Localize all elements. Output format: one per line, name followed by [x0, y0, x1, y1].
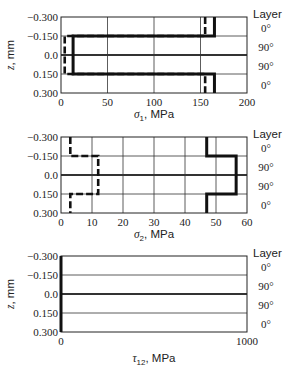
x-tick-label: 0	[58, 216, 64, 228]
layer-label: 90°	[258, 41, 273, 53]
y-tick-label: 0.0	[44, 288, 58, 300]
x-tick-label: 0	[58, 335, 64, 347]
x-tick-label: 60	[242, 216, 254, 228]
layer-label: 90°	[258, 60, 273, 72]
y-tick-label: 0.150	[33, 307, 58, 319]
y-tick-label: 0.150	[33, 68, 58, 80]
y-tick-label: −0.300	[27, 131, 58, 143]
y-tick-label: 0.300	[33, 87, 58, 99]
chart-panel-3: −0.300−0.1500.00.1500.30001000τ12, MPaz,…	[4, 247, 282, 367]
y-axis-label: z, mm	[4, 40, 16, 71]
layer-label: 0°	[261, 199, 271, 211]
layer-label: 90°	[258, 280, 273, 292]
layer-label: 0°	[261, 22, 271, 34]
x-tick-label: 100	[146, 96, 163, 108]
x-axis-label: σ1, MPa	[134, 108, 175, 123]
layer-label: 90°	[258, 299, 273, 311]
x-tick-label: 200	[239, 96, 256, 108]
x-tick-label: 150	[192, 96, 209, 108]
y-tick-label: 0.300	[33, 326, 58, 338]
x-tick-label: 1000	[236, 335, 259, 347]
grid-lines	[61, 137, 247, 213]
y-tick-label: −0.300	[27, 11, 58, 23]
x-tick-label: 40	[180, 216, 192, 228]
y-tick-label: 0.0	[44, 49, 58, 61]
x-tick-label: 20	[118, 216, 130, 228]
y-tick-label: 0.150	[33, 188, 58, 200]
layer-label: 90°	[258, 180, 273, 192]
layer-header: Layer	[253, 8, 282, 20]
layer-header: Layer	[253, 128, 282, 140]
x-axis-label: τ12, MPa	[132, 352, 176, 367]
y-tick-label: −0.150	[27, 150, 58, 162]
x-tick-label: 50	[211, 216, 223, 228]
y-tick-label: −0.300	[27, 250, 58, 262]
layer-label: 0°	[261, 261, 271, 273]
x-tick-label: 10	[87, 216, 99, 228]
grid-lines	[61, 17, 247, 93]
x-tick-label: 30	[149, 216, 161, 228]
x-axis-label: σ2, MPa	[134, 228, 175, 243]
y-tick-label: 0.0	[44, 169, 58, 181]
y-tick-label: −0.150	[27, 269, 58, 281]
chart-panel-1: −0.300−0.1500.00.1500.300050100150200σ1,…	[4, 8, 282, 123]
layer-label: 90°	[258, 161, 273, 173]
grid-lines	[61, 275, 247, 313]
layer-label: 0°	[261, 142, 271, 154]
y-axis-label: z, mm	[4, 279, 16, 310]
y-tick-label: −0.150	[27, 30, 58, 42]
layer-header: Layer	[253, 247, 282, 259]
x-tick-label: 50	[102, 96, 114, 108]
y-tick-label: 0.300	[33, 207, 58, 219]
chart-panel-2: −0.300−0.1500.00.1500.3000102030405060σ2…	[27, 128, 282, 243]
layer-label: 0°	[261, 79, 271, 91]
layer-label: 0°	[261, 318, 271, 330]
x-tick-label: 0	[58, 96, 64, 108]
stress-distribution-figure: −0.300−0.1500.00.1500.300050100150200σ1,…	[0, 0, 293, 374]
